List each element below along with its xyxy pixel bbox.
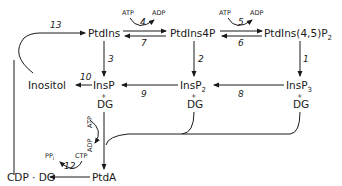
reaction-5: 5 (238, 17, 244, 27)
node-dg-1: DG (97, 98, 113, 110)
node-dg-3: DG (293, 98, 309, 110)
cofactor-adp-5: ADP (250, 9, 263, 17)
reaction-7: 7 (141, 38, 147, 48)
reaction-2: 2 (198, 54, 204, 64)
reaction-6: 6 (238, 38, 244, 48)
pathway-diagram: PtdIns PtdIns4P PtdIns(4,5)P2 7 ATP ADP … (0, 0, 342, 186)
cofactor-atp-5: ATP (219, 9, 231, 17)
cofactor-adp-vert: ADP (86, 139, 94, 152)
cofactor-adp-4: ADP (152, 9, 165, 17)
cofactor-ctp: CTP (75, 152, 88, 160)
node-ptda: PtdA (92, 171, 117, 183)
reaction-1: 1 (303, 54, 309, 64)
reaction-8: 8 (238, 89, 244, 99)
cofactor-atp-4: ATP (122, 9, 134, 17)
node-ptdins4p: PtdIns4P (170, 27, 215, 39)
arrow-inositol-to-ptdins (19, 33, 85, 73)
reaction-12: 12 (64, 161, 76, 171)
node-insp: InsP (93, 79, 115, 91)
node-ptdins45p2: PtdIns(4,5)P2 (264, 27, 332, 42)
line-dg3-merge (182, 112, 300, 134)
cofactor-ppi: PPi (45, 152, 54, 161)
line-dg2-merge (106, 112, 194, 145)
reaction-10: 10 (80, 72, 92, 82)
node-dg-2: DG (187, 98, 203, 110)
node-cdpdg: CDP · DG (7, 171, 55, 183)
node-inositol: Inositol (28, 79, 66, 91)
node-ptdins: PtdIns (88, 27, 120, 39)
reaction-13: 13 (50, 20, 62, 30)
reaction-3: 3 (108, 54, 114, 64)
reaction-9: 9 (141, 89, 147, 99)
reaction-4: 4 (140, 17, 146, 27)
